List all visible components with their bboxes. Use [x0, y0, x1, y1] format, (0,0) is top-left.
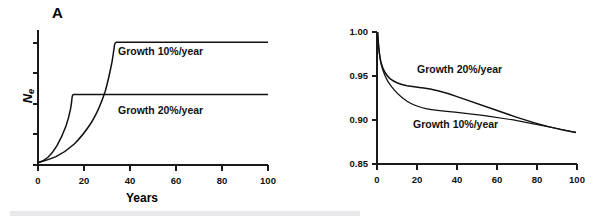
bottom-scan-band: [10, 211, 360, 216]
panel-b-plot: 1.00 0.95 0.90 0.85 0 20 40 60 80 100: [295, 0, 595, 216]
panel-b-xtick-20: 20: [412, 174, 423, 185]
panel-a-annotation-growth-10: Growth 10%/year: [118, 45, 203, 57]
panel-a-xtick-20: 20: [79, 175, 90, 186]
panel-a-label: A: [52, 4, 63, 21]
panel-b-xtick-0: 0: [374, 174, 379, 185]
panel-a-annotation-growth-20: Growth 20%/year: [118, 104, 203, 116]
panel-b-xtick-100: 100: [569, 174, 585, 185]
panel-b-x-ticks: [377, 164, 577, 170]
panel-b-ytick-0-95: 0.95: [350, 70, 369, 81]
panel-a: A Ne: [0, 0, 300, 216]
panel-a-xtick-80: 80: [217, 175, 228, 186]
figure-container: A Ne: [0, 0, 595, 216]
panel-b-ytick-1-00: 1.00: [350, 26, 369, 37]
panel-a-xtick-100: 100: [260, 175, 276, 186]
panel-b-annotation-growth-20: Growth 20%/year: [417, 63, 502, 75]
y-axis-title-subscript: e: [26, 89, 36, 94]
panel-b-ytick-0-85: 0.85: [350, 158, 369, 169]
panel-b-annotation-growth-10: Growth 10%/year: [413, 118, 498, 130]
panel-a-xtick-0: 0: [35, 175, 40, 186]
panel-a-xtick-60: 60: [171, 175, 182, 186]
panel-a-y-axis-title: Ne: [20, 76, 36, 116]
panel-a-x-axis-title: Years: [126, 191, 158, 205]
panel-b-xtick-40: 40: [452, 174, 463, 185]
panel-a-curve-growth-10: [39, 42, 268, 162]
panel-b: Ht/H0 1.00 0.95 0.90 0.85: [295, 0, 595, 216]
panel-a-plot: 0 20 40 60 80 100 Growth 10%/year Growth…: [0, 0, 300, 216]
y-axis-title-symbol: N: [20, 94, 35, 103]
panel-a-xtick-40: 40: [125, 175, 136, 186]
panel-a-x-ticks: [38, 165, 268, 171]
panel-b-xtick-80: 80: [532, 174, 543, 185]
panel-b-xtick-60: 60: [492, 174, 503, 185]
panel-b-y-ticks: [372, 32, 377, 164]
panel-b-ytick-0-90: 0.90: [350, 114, 369, 125]
